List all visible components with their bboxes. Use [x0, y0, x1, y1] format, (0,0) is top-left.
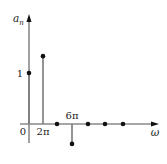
x-tick-label-6pi: 6π [66, 110, 79, 121]
stem-marker [70, 142, 75, 147]
stem-marker [86, 122, 91, 127]
x-axis-label: ω [151, 126, 160, 138]
origin-label: 0 [20, 126, 26, 137]
stem-marker [103, 122, 108, 127]
stem-marker [41, 54, 46, 59]
y-axis-label: an [13, 12, 24, 27]
stem-marker [55, 122, 60, 127]
x-tick-label-2pi: 2π [37, 126, 50, 137]
y-tick-label-1: 1 [17, 68, 23, 79]
stem-marker [27, 71, 32, 76]
stem-marker [121, 122, 126, 127]
line-spectrum-figure: an 1 0 2π 6π ω [0, 0, 167, 164]
y-axis-arrow-icon [27, 14, 32, 22]
